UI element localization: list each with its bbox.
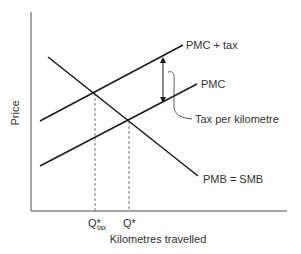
q-star-label: Q*	[123, 217, 137, 229]
pmc-label: PMC	[201, 78, 226, 90]
pmb-curve	[48, 57, 198, 176]
pmb-smb-label: PMB = SMB	[203, 173, 263, 185]
externality-diagram: PMC + tax PMC Tax per kilometre PMB = SM…	[0, 0, 301, 254]
tax-leader-line	[168, 72, 192, 119]
x-axis-label: Kilometres travelled	[110, 233, 207, 245]
y-axis-label: Price	[9, 100, 21, 125]
tax-per-km-label: Tax per kilometre	[195, 113, 279, 125]
pmc-tax-curve	[40, 45, 183, 121]
q-tax-subscript: tax	[97, 224, 107, 231]
pmc-tax-label: PMC + tax	[186, 39, 238, 51]
pmc-curve	[40, 84, 197, 166]
